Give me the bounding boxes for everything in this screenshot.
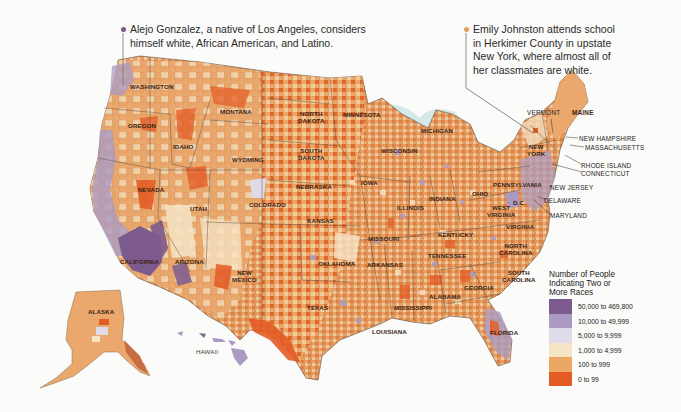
label-nevada: NEVADA (138, 187, 164, 194)
label-wisconsin: WISCONSIN (381, 148, 418, 155)
label-washington: WASHINGTON (130, 84, 174, 91)
label-new-hampshire: NEW HAMPSHIRE (579, 135, 636, 142)
label-ohio: OHIO (472, 191, 488, 198)
label-rhode-island: RHODE ISLAND (581, 162, 631, 169)
label-massachusetts: MASSACHUSETTS (585, 144, 644, 151)
label-wyoming: WYOMING (232, 157, 264, 164)
label-south-dakota: SOUTH DAKOTA (298, 148, 325, 162)
label-alaska: ALASKA (88, 309, 114, 316)
label-louisiana: LOUISIANA (372, 329, 407, 336)
callout-dot-icon (121, 27, 126, 32)
callout-alejo-line1: Alejo Gonzalez, a native of Los Angeles,… (130, 23, 366, 37)
label-new-york: NEW YORK (527, 144, 545, 158)
label-montana: MONTANA (220, 109, 252, 116)
legend-swatch (549, 314, 572, 330)
label-pennsylvania: PENNSYLVANIA (493, 182, 542, 189)
legend-swatch (549, 299, 572, 315)
label-idaho: IDAHO (173, 144, 193, 151)
label-north-dakota: NORTH DAKOTA (298, 111, 325, 125)
callout-alejo-line2: himself white, African American, and Lat… (130, 37, 366, 51)
legend-title: Number of People Indicating Two or More … (549, 270, 679, 298)
label-connecticut: CONNECTICUT (581, 170, 630, 177)
label-kentucky: KENTUCKY (438, 232, 473, 239)
label-california: CALIFORNIA (120, 259, 159, 266)
label-florida: FLORIDA (490, 330, 518, 337)
map-figure: Alejo Gonzalez, a native of Los Angeles,… (0, 0, 681, 412)
callout-emily: Emily Johnston attends school in Herkime… (473, 23, 615, 77)
label-indiana: INDIANA (429, 196, 455, 203)
label-minnesota: MINNESOTA (343, 112, 381, 119)
label-iowa: IOWA (361, 180, 378, 187)
callout-emily-line3: New York, where almost all of (473, 50, 615, 64)
label-oregon: OREGON (128, 123, 156, 130)
label-illinois: ILLINOIS (397, 205, 424, 212)
callout-emily-line2: in Herkimer County in upstate (473, 37, 615, 51)
label-maryland: MARYLAND (550, 212, 587, 219)
legend-swatch (549, 343, 572, 359)
label-new-mexico: NEW MEXICO (232, 270, 257, 284)
label-colorado: COLORADO (249, 202, 286, 209)
legend: Number of People Indicating Two or More … (549, 270, 679, 387)
label-dc: D.C. (513, 200, 526, 207)
label-missouri: MISSOURI (368, 236, 399, 243)
label-west-virginia: WEST VIRGINIA (487, 205, 515, 219)
label-alabama: ALABAMA (429, 294, 461, 301)
label-mississippi: MISSISSIPPI (394, 305, 432, 312)
callout-dot-icon (464, 27, 469, 32)
label-arkansas: ARKANSAS (367, 262, 403, 269)
legend-item: 10,000 to 49,999 (549, 314, 679, 329)
label-north-carolina: NORTH CAROLINA (499, 243, 532, 257)
label-texas: TEXAS (307, 305, 328, 312)
label-arizona: ARIZONA (175, 259, 204, 266)
legend-item: 100 to 999 (549, 358, 679, 373)
label-south-carolina: SOUTH CAROLINA (502, 270, 535, 284)
legend-item: 1,000 to 4,999 (549, 343, 679, 358)
legend-swatch (549, 328, 572, 344)
legend-item: 5,000 to 9,999 (549, 329, 679, 344)
label-kansas: KANSAS (307, 218, 334, 225)
label-hawaii: HAWAII (196, 349, 218, 356)
legend-swatch (549, 357, 572, 373)
callout-alejo: Alejo Gonzalez, a native of Los Angeles,… (130, 23, 366, 50)
label-nebraska: NEBRASKA (296, 184, 332, 191)
callout-emily-line1: Emily Johnston attends school (473, 23, 615, 37)
label-tennessee: TENNESSEE (428, 253, 466, 260)
callout-emily-line4: her classmates are white. (473, 64, 615, 78)
label-delaware: DELAWARE (544, 197, 581, 204)
label-maine: MAINE (572, 109, 594, 116)
label-new-jersey: NEW JERSEY (550, 184, 594, 191)
label-michigan: MICHIGAN (421, 128, 453, 135)
label-georgia: GEORGIA (464, 285, 494, 292)
label-oklahoma: OKLAHOMA (318, 261, 355, 268)
legend-item: 50,000 to 469,800 (549, 300, 679, 315)
label-virginia: VIRGINIA (506, 224, 534, 231)
label-utah: UTAH (190, 206, 207, 213)
legend-item: 0 to 99 (549, 372, 679, 387)
legend-swatch (549, 372, 572, 388)
label-vermont: VERMONT (527, 109, 560, 116)
